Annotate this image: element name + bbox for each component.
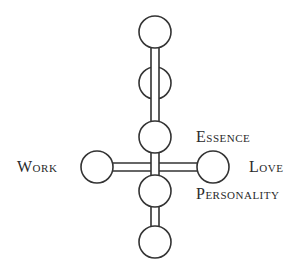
label-love: Love [249,159,283,175]
label-essence: Essence [196,129,250,145]
node-essence [139,121,171,153]
enneagram-cross-diagram [0,0,298,277]
node-top [139,16,171,48]
connector-work-love [113,163,197,171]
connector-essence-personality [151,152,159,176]
node-love [197,151,229,183]
label-work: Work [17,159,57,175]
label-personality: Personality [196,186,279,202]
node-work [81,151,113,183]
connector-top-essence [151,47,159,123]
connector-personality-bottom [151,206,159,227]
node-bottom [139,226,171,258]
node-personality [139,175,171,207]
